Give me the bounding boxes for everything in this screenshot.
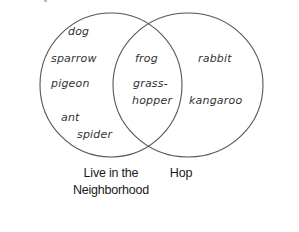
item-frog: frog [135, 53, 158, 65]
item-dog: dog [68, 26, 89, 38]
item-rabbit: rabbit [198, 53, 232, 65]
item-sparrow: sparrow [51, 53, 97, 65]
item-grasshopper-line2: hopper [132, 95, 172, 107]
item-kangaroo: kangaroo [189, 95, 242, 107]
item-pigeon: pigeon [51, 78, 90, 90]
item-ant: ant [61, 112, 80, 124]
venn-diagram: dog sparrow pigeon ant spider frog grass… [0, 0, 299, 232]
left-set-label-line2: Neighborhood [66, 183, 156, 198]
right-set-label: Hop [166, 166, 196, 181]
left-set-label: Live in the Neighborhood [66, 166, 156, 198]
item-spider: spider [77, 129, 112, 141]
right-set-label-line1: Hop [166, 166, 196, 181]
left-set-label-line1: Live in the [66, 166, 156, 181]
item-grasshopper-line1: grass- [133, 78, 168, 90]
cropped-mark [44, 0, 47, 2]
